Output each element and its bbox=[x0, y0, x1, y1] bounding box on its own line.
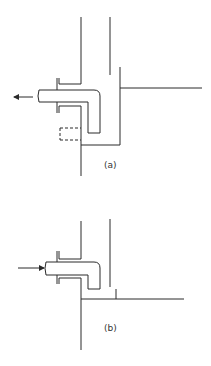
panel-a: (a) bbox=[14, 17, 202, 176]
diagram-canvas: (a) (b) bbox=[0, 0, 211, 366]
panel-b: (b) bbox=[18, 219, 184, 350]
elbow-pipe bbox=[45, 262, 100, 289]
panel-b-label: (b) bbox=[104, 323, 117, 333]
panel-a-label: (a) bbox=[104, 160, 117, 170]
elbow-pipe bbox=[38, 90, 100, 133]
